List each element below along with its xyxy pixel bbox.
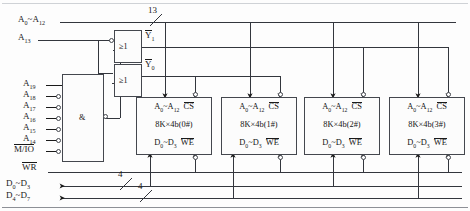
bus-width-tag-data-high: 4 [138,181,143,191]
chip-0-we-bubble [193,155,198,160]
chip-3-row-data: D0~D3 WE [390,138,464,149]
chip-1-cs-bubble [278,92,283,97]
chip-1-row-address: A0~A12 CS [222,102,296,113]
or-gate-y0-symbol: ≥1 [119,76,128,85]
and-input-bubble-a16 [56,116,61,121]
or-gate-y0-output-label: Y0 [145,59,155,71]
chip-0-cs-bubble [193,92,198,97]
schematic-canvas: A0~A12 13 A13 WR D0~D3 4 D4~D7 4 & A19 A… [0,0,470,211]
chip-3-cs-bubble [446,92,451,97]
bus-width-tag-data-low: 4 [118,169,123,179]
and-input-bubble-a18 [56,94,61,99]
chip-3-row-size: 8K×4b(3#) [390,120,464,129]
and-input-bubble-a17 [56,105,61,110]
and-input-wire-a19 [46,85,62,86]
or-gate-y1-symbol: ≥1 [119,42,128,51]
memory-chip-0[interactable]: A0~A12 CS 8K×4b(0#) D0~D3 WE [136,97,212,155]
or-gate-y1-input-bubble [109,38,114,43]
and-gate-output-bubble [103,114,108,119]
chip-3-row-address: A0~A12 CS [390,102,464,113]
and-input-label-memio: M/IO [14,144,34,154]
chip-2-row-address: A0~A12 CS [305,102,379,113]
chip-1-row-data: D0~D3 WE [222,138,296,149]
chip-0-row-size: 8K×4b(0#) [137,120,211,129]
memory-chip-3[interactable]: A0~A12 CS 8K×4b(3#) D0~D3 WE [389,97,465,155]
bus-label-address-low: A0~A12 [18,14,45,26]
chip-1-we-bubble [278,155,283,160]
and-gate-symbol: & [79,113,85,122]
chip-2-we-bubble [361,155,366,160]
memory-chip-2[interactable]: A0~A12 CS 8K×4b(2#) D0~D3 WE [304,97,380,155]
chip-1-row-size: 8K×4b(1#) [222,120,296,129]
and-input-bubble-a14 [56,138,61,143]
bus-label-a13: A13 [18,32,31,44]
and-input-bubble-memio [56,149,61,154]
and-input-bubble-a15 [56,127,61,132]
chip-0-row-data: D0~D3 WE [137,138,211,149]
bus-label-data-high: D4~D7 [6,190,30,202]
chip-2-cs-bubble [361,92,366,97]
bus-label-data-low: D0~D3 [6,178,30,190]
bus-label-write-enable: WR [22,162,37,172]
or-gate-y1-output-label: Y1 [145,30,155,42]
chip-2-row-data: D0~D3 WE [305,138,379,149]
chip-2-row-size: 8K×4b(2#) [305,120,379,129]
chip-0-row-address: A0~A12 CS [137,102,211,113]
memory-chip-1[interactable]: A0~A12 CS 8K×4b(1#) D0~D3 WE [221,97,297,155]
chip-3-we-bubble [446,155,451,160]
bus-width-tag-13: 13 [148,5,157,15]
